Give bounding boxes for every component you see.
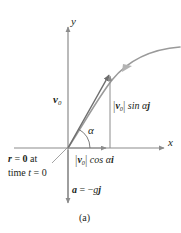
trajectory-curve <box>68 47 180 148</box>
equals-sign: = <box>14 153 20 164</box>
abs-open-bracket: | <box>113 101 115 113</box>
time-word: time <box>8 167 26 178</box>
horizontal-component-label: |v0| cos αi <box>75 155 114 167</box>
figure-caption: (a) <box>79 213 90 223</box>
projectile-motion-figure <box>0 0 181 233</box>
zero-vector: 0 <box>23 153 28 164</box>
at-word: at <box>30 153 37 164</box>
vcos-trig: cos <box>90 154 103 165</box>
x-axis-label: x <box>168 137 173 148</box>
t-symbol: t <box>28 167 31 178</box>
abs-close-bracket: | <box>123 101 125 113</box>
a-symbol: a <box>72 184 77 195</box>
vertical-component-label: |v0| sin αj <box>113 101 150 113</box>
angle-label: α <box>88 125 94 136</box>
initial-position-line2: time t = 0 <box>8 168 47 178</box>
y-axis-label: y <box>71 16 76 27</box>
zero-value: 0 <box>42 167 47 178</box>
trajectory-arrowhead-icon <box>122 64 132 72</box>
origin-leader-line <box>52 147 68 163</box>
r-symbol: r <box>8 153 12 164</box>
equals-sign: = <box>34 167 40 178</box>
vcos-unit-vector: i <box>111 154 114 165</box>
initial-position-line1: r = 0 at <box>8 154 37 164</box>
equals-sign: = <box>80 184 86 195</box>
v0-subscript: 0 <box>58 99 61 106</box>
vsin-trig: sin <box>128 100 140 111</box>
abs-open-bracket: | <box>75 155 77 167</box>
velocity-vector-label: v0 <box>53 94 61 107</box>
acceleration-label: a = −gj <box>72 185 101 195</box>
velocity-vector-v0 <box>68 75 109 148</box>
vsin-unit-vector: j <box>147 100 150 111</box>
abs-close-bracket: | <box>85 155 87 167</box>
j-unit-vector: j <box>98 184 101 195</box>
